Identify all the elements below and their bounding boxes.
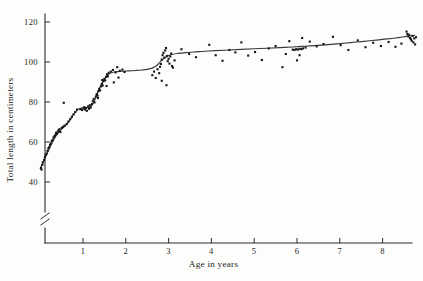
data-point xyxy=(372,42,374,44)
data-point xyxy=(107,75,109,77)
data-point xyxy=(240,41,242,43)
x-tick-label: 1 xyxy=(81,246,86,256)
data-point xyxy=(113,81,115,83)
data-point xyxy=(168,58,170,60)
y-axis-break-symbol xyxy=(41,213,50,225)
data-point xyxy=(228,49,230,51)
axes-group xyxy=(41,14,413,243)
data-point xyxy=(172,67,174,69)
data-point xyxy=(322,43,324,45)
x-axis-title: Age in years xyxy=(189,259,239,269)
data-point xyxy=(48,146,50,148)
y-tick-label: 80 xyxy=(29,97,38,107)
data-point xyxy=(162,54,164,56)
data-point xyxy=(99,89,101,91)
data-point xyxy=(46,153,48,155)
data-point xyxy=(94,101,96,103)
fit-curve-group xyxy=(40,35,415,168)
data-point xyxy=(119,70,121,72)
y-tick-label: 120 xyxy=(24,17,38,27)
data-point xyxy=(215,54,217,56)
data-point xyxy=(116,66,118,68)
data-point xyxy=(41,164,43,166)
data-point xyxy=(40,169,42,171)
data-point xyxy=(162,52,164,54)
data-point xyxy=(117,77,119,79)
data-point xyxy=(161,80,163,82)
data-point xyxy=(234,51,236,53)
axis-titles-group: Age in yearsTotal length in centimeters xyxy=(5,77,238,269)
data-point xyxy=(268,47,270,49)
data-point xyxy=(108,72,110,74)
data-point xyxy=(285,53,287,55)
data-point xyxy=(195,56,197,58)
data-point xyxy=(89,104,91,106)
data-points-group xyxy=(40,31,417,171)
data-point xyxy=(168,63,170,65)
data-point xyxy=(165,84,167,86)
data-point xyxy=(153,71,155,73)
data-point xyxy=(161,59,163,61)
data-point xyxy=(281,66,283,68)
data-point xyxy=(163,57,165,59)
data-point xyxy=(340,44,342,46)
data-point xyxy=(254,51,256,53)
data-point xyxy=(261,59,263,61)
x-tick-label: 4 xyxy=(209,246,214,256)
ticks-group xyxy=(45,22,383,243)
x-tick-label: 7 xyxy=(337,246,342,256)
growth-chart-figure: 40608010012012345678 Age in yearsTotal l… xyxy=(0,0,423,281)
x-tick-label: 8 xyxy=(380,246,385,256)
x-tick-label: 5 xyxy=(252,246,257,256)
data-point xyxy=(296,59,298,61)
data-point xyxy=(43,159,45,161)
data-point xyxy=(63,102,65,104)
y-axis-title: Total length in centimeters xyxy=(5,77,15,182)
data-point xyxy=(380,45,382,47)
data-point xyxy=(97,95,99,97)
data-point xyxy=(275,45,277,47)
data-point xyxy=(388,41,390,43)
data-point xyxy=(400,43,402,45)
data-point xyxy=(74,111,76,113)
data-point xyxy=(164,49,166,51)
data-point xyxy=(166,55,168,57)
data-point xyxy=(56,133,58,135)
data-point xyxy=(50,143,52,145)
data-point xyxy=(165,47,167,49)
data-point xyxy=(104,79,106,81)
data-point xyxy=(301,37,303,39)
data-point xyxy=(180,48,182,50)
data-point xyxy=(412,41,414,43)
data-point xyxy=(46,150,48,152)
data-point xyxy=(67,121,69,123)
x-tick-label: 6 xyxy=(295,246,300,256)
data-point xyxy=(159,66,161,68)
data-point xyxy=(112,69,114,71)
data-point xyxy=(299,54,301,56)
data-point xyxy=(58,128,60,130)
data-point xyxy=(288,40,290,42)
data-point xyxy=(155,77,157,79)
data-point xyxy=(170,53,172,55)
data-point xyxy=(332,36,334,38)
data-point xyxy=(357,39,359,41)
data-point xyxy=(93,98,95,100)
y-tick-label: 40 xyxy=(29,177,38,187)
data-point xyxy=(86,110,88,112)
data-point xyxy=(156,68,158,70)
x-tick-label: 3 xyxy=(166,246,171,256)
y-tick-label: 100 xyxy=(24,57,38,67)
data-point xyxy=(406,31,408,33)
data-point xyxy=(91,103,93,105)
data-point xyxy=(208,44,210,46)
data-point xyxy=(415,36,417,38)
data-point xyxy=(305,47,307,49)
chart-canvas: 40608010012012345678 Age in yearsTotal l… xyxy=(0,0,423,281)
data-point xyxy=(76,109,78,111)
data-point xyxy=(114,71,116,73)
data-point xyxy=(151,74,153,76)
data-point xyxy=(302,47,304,49)
data-point xyxy=(73,113,75,115)
fitted-growth-curve xyxy=(40,35,415,168)
